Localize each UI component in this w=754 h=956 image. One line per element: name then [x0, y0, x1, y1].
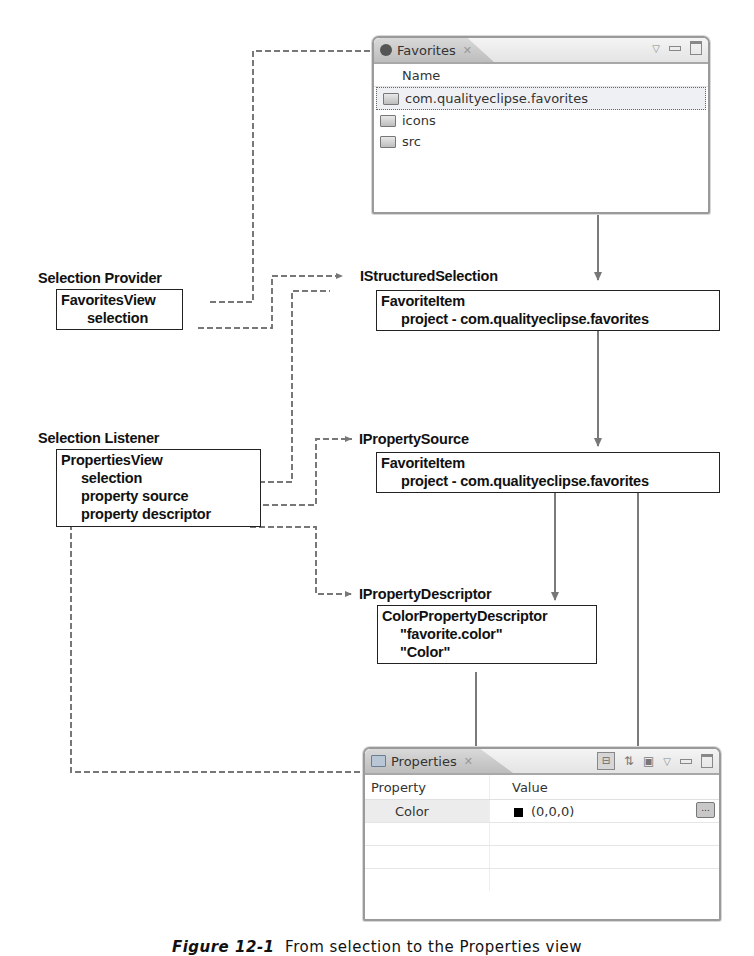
- properties-view: Properties ✕ ⊟ ⇅ ▣ ▽ Property Value Colo…: [363, 747, 721, 921]
- selection-provider-box: FavoritesView selection: [56, 289, 183, 330]
- show-categories-icon[interactable]: ⊟: [597, 752, 615, 770]
- box-line: project - com.qualityeclipse.favorites: [381, 472, 715, 490]
- value-text: (0,0,0): [531, 804, 574, 819]
- folder-icon: [380, 136, 396, 148]
- tree-item-label: src: [402, 134, 421, 149]
- value-cell[interactable]: (0,0,0) ...: [490, 800, 720, 823]
- favorites-view: Favorites ✕ ▽ Name com.qualityeclipse.fa…: [372, 36, 710, 214]
- view-menu-icon[interactable]: ▽: [663, 756, 671, 767]
- table-row: [365, 823, 719, 846]
- box-line: FavoriteItem: [381, 454, 715, 472]
- selection-listener-heading: Selection Listener: [38, 430, 159, 446]
- table-row[interactable]: Color (0,0,0) ...: [365, 800, 719, 823]
- edit-color-button[interactable]: ...: [696, 802, 715, 818]
- structured-selection-box: FavoriteItem project - com.qualityeclips…: [376, 290, 720, 331]
- maximize-icon[interactable]: [690, 41, 702, 55]
- restore-default-icon[interactable]: ▣: [643, 754, 654, 768]
- selection-provider-heading: Selection Provider: [38, 270, 162, 286]
- view-controls: ▽: [652, 41, 702, 55]
- property-cell: Color: [365, 800, 490, 823]
- view-menu-icon[interactable]: ▽: [652, 43, 660, 54]
- figure-caption-text: From selection to the Properties view: [285, 938, 582, 956]
- property-source-box: FavoriteItem project - com.qualityeclips…: [376, 452, 720, 493]
- box-line: ColorPropertyDescriptor: [382, 607, 592, 625]
- favorites-view-header: Favorites ✕ ▽: [374, 38, 708, 64]
- name-column-header[interactable]: Name: [374, 64, 708, 87]
- tree-item-label: icons: [402, 113, 436, 128]
- box-line: property source: [61, 487, 256, 505]
- box-line: PropertiesView: [61, 451, 256, 469]
- properties-table: Property Value Color (0,0,0) ...: [365, 775, 719, 891]
- minimize-icon[interactable]: [680, 759, 692, 764]
- property-descriptor-heading: IPropertyDescriptor: [359, 586, 491, 602]
- selection-listener-box: PropertiesView selection property source…: [56, 449, 261, 527]
- properties-icon: [371, 755, 386, 767]
- box-line: FavoriteItem: [381, 292, 715, 310]
- tree-item[interactable]: icons: [374, 110, 708, 131]
- property-descriptor-box: ColorPropertyDescriptor "favorite.color"…: [377, 605, 597, 664]
- table-row: [365, 846, 719, 869]
- minimize-icon[interactable]: [669, 46, 681, 51]
- box-line: project - com.qualityeclipse.favorites: [381, 310, 715, 328]
- view-controls: ⊟ ⇅ ▣ ▽: [597, 752, 713, 770]
- tree-item-label: com.qualityeclipse.favorites: [405, 91, 588, 106]
- project-folder-icon: [383, 93, 399, 105]
- box-line: "Color": [382, 643, 592, 661]
- figure-caption: Figure 12-1 From selection to the Proper…: [0, 938, 754, 956]
- value-column-header[interactable]: Value: [490, 775, 720, 800]
- favorites-tab[interactable]: Favorites ✕: [374, 38, 494, 62]
- tree-item[interactable]: com.qualityeclipse.favorites: [376, 87, 706, 110]
- table-row: [365, 869, 719, 892]
- properties-tab[interactable]: Properties ✕: [365, 749, 513, 773]
- box-line: "favorite.color": [382, 625, 592, 643]
- maximize-icon[interactable]: [701, 754, 713, 768]
- box-line: FavoritesView: [61, 291, 178, 309]
- color-swatch: [514, 808, 523, 817]
- property-column-header[interactable]: Property: [365, 775, 490, 800]
- properties-view-header: Properties ✕ ⊟ ⇅ ▣ ▽: [365, 749, 719, 775]
- box-line: selection: [61, 469, 256, 487]
- properties-tab-title: Properties: [391, 754, 457, 769]
- favorites-globe-icon: [380, 44, 392, 56]
- favorites-tab-title: Favorites: [397, 43, 456, 58]
- box-line: property descriptor: [61, 505, 256, 523]
- box-line: selection: [61, 309, 178, 327]
- structured-selection-heading: IStructuredSelection: [360, 268, 498, 284]
- close-icon[interactable]: ✕: [464, 755, 473, 768]
- folder-icon: [380, 115, 396, 127]
- provider-to-favorites-wire: [210, 51, 372, 302]
- close-icon[interactable]: ✕: [463, 44, 472, 57]
- show-advanced-icon[interactable]: ⇅: [624, 754, 634, 768]
- tree-item[interactable]: src: [374, 131, 708, 152]
- property-source-heading: IPropertySource: [359, 431, 469, 447]
- figure-label: Figure 12-1: [172, 938, 275, 956]
